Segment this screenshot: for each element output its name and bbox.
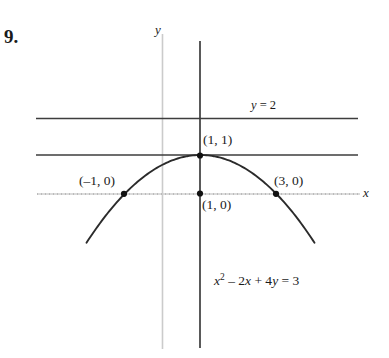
point-vertex-label: (1, 1)	[203, 133, 232, 147]
point-x-intercept-right-label: (3, 0)	[274, 174, 303, 188]
figure-canvas: 9. y x y = 2 (1, 1) (–1, 0) (3, 0) (1, 0…	[0, 0, 389, 358]
point-x-intercept-right	[273, 191, 279, 197]
point-x-intercept-left	[121, 191, 127, 197]
point-vertex	[197, 152, 203, 158]
parabola-equation-label: x2 – 2x + 4y = 3	[214, 274, 299, 288]
graph-svg	[0, 0, 389, 358]
point-axis-foot	[197, 190, 203, 196]
x-axis-label: x	[363, 186, 369, 199]
eq-rhs: = 3	[278, 273, 299, 288]
line-y-equals-2-label: y = 2	[251, 99, 276, 112]
eq-plus: + 4	[251, 273, 272, 288]
point-axis-foot-label: (1, 0)	[202, 198, 231, 212]
eq-mid: – 2	[225, 273, 245, 288]
point-x-intercept-left-label: (–1, 0)	[79, 174, 115, 188]
problem-number: 9.	[4, 27, 18, 46]
line-y2-label-rest: = 2	[257, 98, 277, 112]
y-axis-label: y	[155, 23, 161, 36]
